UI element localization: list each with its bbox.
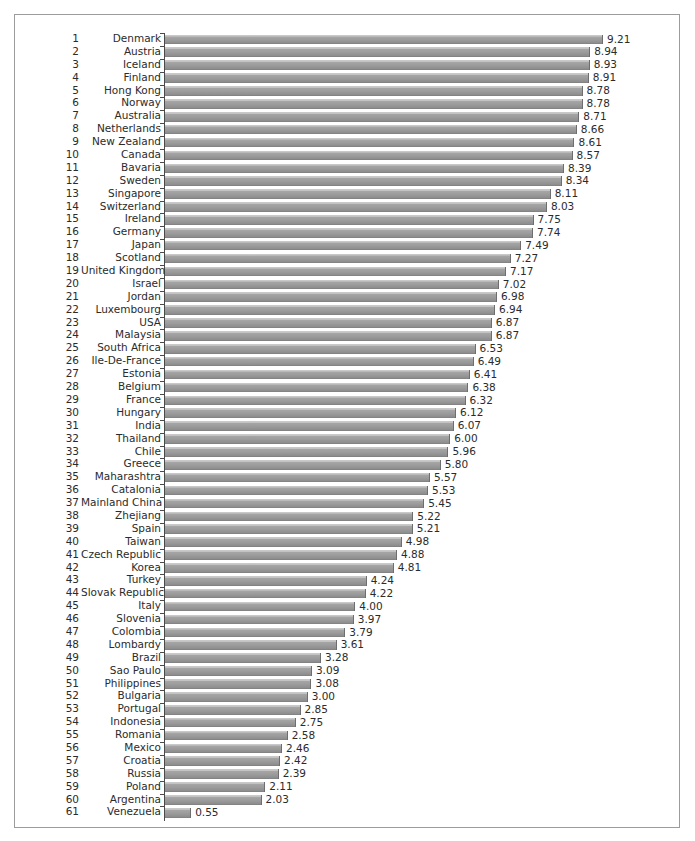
category-label: Denmark — [81, 32, 161, 45]
axis-tick — [160, 278, 164, 279]
bar — [165, 47, 590, 57]
rank-number: 36 — [15, 483, 79, 496]
axis-tick — [160, 794, 164, 795]
rank-number: 25 — [15, 341, 79, 354]
bar-container: 6.00 — [165, 434, 478, 444]
bar — [165, 795, 262, 805]
category-label: Philippines — [81, 677, 161, 690]
chart-row: 61Venezuela0.55 — [15, 806, 679, 819]
category-label: Singapore — [81, 187, 161, 200]
category-label: Colombia — [81, 625, 161, 638]
bar — [165, 60, 590, 70]
bar-value-label: 8.39 — [564, 164, 591, 174]
bar — [165, 292, 497, 302]
bar-value-label: 5.21 — [413, 524, 440, 534]
bar-value-label: 2.85 — [301, 705, 328, 715]
bar — [165, 537, 402, 547]
bar-value-label: 6.53 — [476, 344, 503, 354]
bar — [165, 241, 521, 251]
category-label: Mexico — [81, 741, 161, 754]
category-label: Korea — [81, 561, 161, 574]
bar — [165, 447, 448, 457]
bar — [165, 769, 279, 779]
bar-value-label: 6.00 — [450, 434, 477, 444]
bar — [165, 35, 603, 45]
category-label: Australia — [81, 109, 161, 122]
bar-chart-rows: 1Denmark9.212Austria8.943Iceland8.934Fin… — [15, 33, 679, 819]
bar — [165, 602, 355, 612]
axis-tick — [160, 781, 164, 782]
category-label: Ireland — [81, 212, 161, 225]
rank-number: 43 — [15, 573, 79, 586]
bar-container: 8.61 — [165, 138, 602, 148]
bar — [165, 628, 345, 638]
rank-number: 46 — [15, 612, 79, 625]
category-label: Poland — [81, 780, 161, 793]
axis-tick — [160, 690, 164, 691]
bar-value-label: 2.03 — [262, 795, 289, 805]
bar-container: 8.11 — [165, 189, 578, 199]
bar-container: 5.53 — [165, 486, 455, 496]
rank-number: 32 — [15, 432, 79, 445]
bar-value-label: 2.39 — [279, 769, 306, 779]
category-label: Chile — [81, 445, 161, 458]
category-label: Ile-De-France — [81, 354, 161, 367]
bar-value-label: 0.55 — [191, 808, 218, 818]
bar — [165, 421, 454, 431]
bar — [165, 112, 579, 122]
bar-value-label: 6.41 — [470, 370, 497, 380]
axis-tick — [160, 97, 164, 98]
axis-tick — [160, 394, 164, 395]
rank-number: 17 — [15, 238, 79, 251]
bar — [165, 679, 311, 689]
bar-value-label: 8.91 — [589, 73, 616, 83]
category-label: Catalonia — [81, 483, 161, 496]
category-label: India — [81, 419, 161, 432]
axis-tick — [160, 317, 164, 318]
bar-value-label: 8.71 — [579, 112, 606, 122]
axis-tick — [160, 33, 164, 34]
rank-number: 33 — [15, 445, 79, 458]
axis-tick — [160, 123, 164, 124]
rank-number: 48 — [15, 638, 79, 651]
rank-number: 15 — [15, 212, 79, 225]
bar-value-label: 8.94 — [590, 47, 617, 57]
bar-value-label: 4.88 — [397, 550, 424, 560]
bar-value-label: 2.42 — [280, 756, 307, 766]
bar-container: 4.00 — [165, 602, 383, 612]
bar-container: 8.34 — [165, 176, 589, 186]
rank-number: 14 — [15, 200, 79, 213]
category-label: Zhejiang — [81, 509, 161, 522]
bar-container: 4.88 — [165, 550, 424, 560]
bar-container: 6.12 — [165, 408, 483, 418]
category-label: Slovenia — [81, 612, 161, 625]
bar-container: 4.24 — [165, 576, 394, 586]
axis-tick — [160, 549, 164, 550]
rank-number: 55 — [15, 728, 79, 741]
bar-container: 8.93 — [165, 60, 617, 70]
bar-container: 9.21 — [165, 35, 630, 45]
bar — [165, 344, 476, 354]
rank-number: 44 — [15, 586, 79, 599]
bar — [165, 718, 296, 728]
bar-container: 6.38 — [165, 383, 496, 393]
bar-value-label: 3.00 — [308, 692, 335, 702]
bar-container: 3.61 — [165, 640, 364, 650]
axis-tick — [160, 72, 164, 73]
category-label: Hungary — [81, 406, 161, 419]
bar-container: 3.00 — [165, 692, 335, 702]
category-label: Turkey — [81, 573, 161, 586]
rank-number: 60 — [15, 793, 79, 806]
bar-container: 6.87 — [165, 331, 519, 341]
axis-tick — [160, 729, 164, 730]
bar-container: 2.46 — [165, 744, 309, 754]
axis-tick — [160, 510, 164, 511]
bar-container: 8.57 — [165, 151, 600, 161]
bar-container: 5.57 — [165, 473, 457, 483]
category-label: Luxembourg — [81, 303, 161, 316]
axis-tick — [160, 252, 164, 253]
bar-container: 6.41 — [165, 370, 497, 380]
bar — [165, 357, 474, 367]
bar — [165, 550, 397, 560]
bar — [165, 370, 470, 380]
